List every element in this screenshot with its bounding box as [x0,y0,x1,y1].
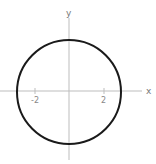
x-axis-label: x [146,86,152,96]
circle-chart: -2 2 x y [0,0,156,164]
tick-label-pos2: 2 [101,96,106,105]
y-axis-label: y [66,8,72,18]
tick-label-neg2: -2 [31,96,39,105]
